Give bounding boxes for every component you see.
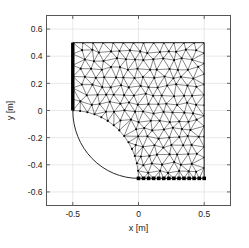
y-tick-label: -0.4 bbox=[28, 160, 43, 170]
x-axis-title: x [m] bbox=[129, 223, 149, 233]
y-tick-label: 0.6 bbox=[31, 24, 43, 34]
y-tick-label: 0 bbox=[38, 106, 43, 116]
support-marker bbox=[137, 177, 141, 181]
figure-background bbox=[0, 0, 249, 248]
support-marker bbox=[172, 177, 176, 181]
y-tick-label: -0.2 bbox=[28, 133, 43, 143]
support-marker bbox=[147, 177, 151, 181]
support-marker bbox=[187, 177, 191, 181]
support-marker bbox=[182, 177, 186, 181]
y-tick-label: 0.4 bbox=[31, 51, 43, 61]
figure-panel: -0.500.5 0.60.40.20-0.2-0.4-0.6 x [m] y … bbox=[0, 0, 249, 248]
support-marker bbox=[177, 177, 181, 181]
x-tick-label: 0.5 bbox=[198, 209, 210, 219]
y-tick-label: 0.2 bbox=[31, 79, 43, 89]
support-marker bbox=[157, 177, 161, 181]
mesh-plot: -0.500.5 0.60.40.20-0.2-0.4-0.6 x [m] y … bbox=[0, 0, 249, 248]
support-marker bbox=[167, 177, 171, 181]
x-tick-label: -0.5 bbox=[65, 209, 80, 219]
support-marker bbox=[197, 177, 201, 181]
support-marker bbox=[202, 177, 206, 181]
support-marker bbox=[192, 177, 196, 181]
support-marker bbox=[162, 177, 166, 181]
support-marker bbox=[142, 177, 146, 181]
y-axis-title: y [m] bbox=[5, 101, 15, 121]
y-tick-label: -0.6 bbox=[28, 187, 43, 197]
support-marker bbox=[152, 177, 156, 181]
x-tick-label: 0 bbox=[136, 209, 141, 219]
